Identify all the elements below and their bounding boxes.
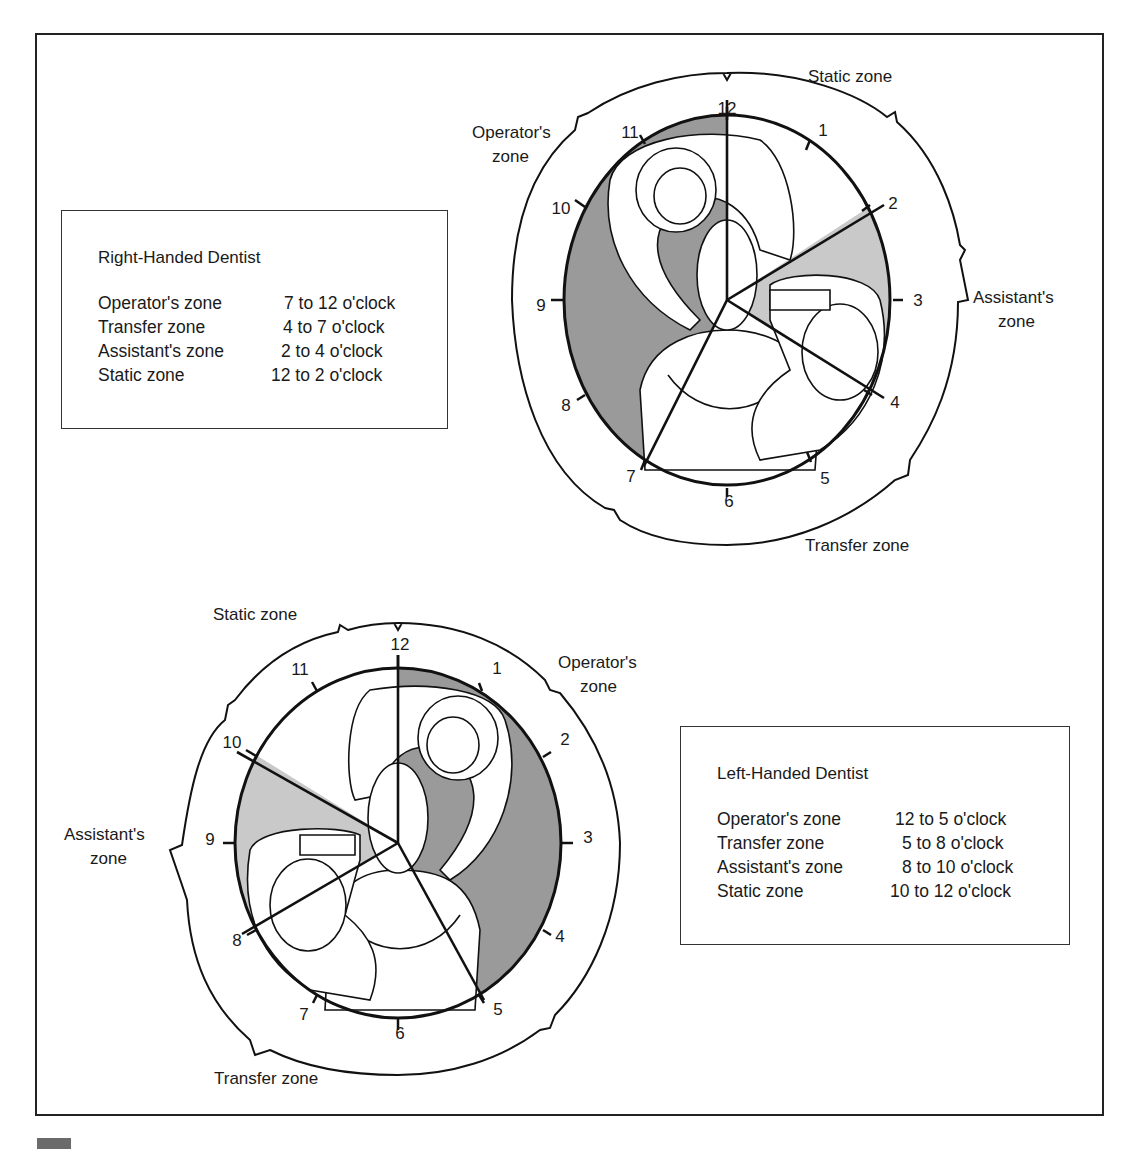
clock-number-1: 1 — [818, 121, 827, 140]
clock-number-3: 3 — [583, 828, 592, 847]
clock-number-5: 5 — [493, 1000, 502, 1019]
label-static-zone: Static zone — [808, 67, 892, 86]
label-operator-zone-line1: Operator's — [472, 123, 551, 142]
clock-number-2: 2 — [888, 194, 897, 213]
clock-number-6: 6 — [724, 492, 733, 511]
label-operator-zone-line2: zone — [492, 147, 529, 166]
label-operator-zone-line1: Operator's — [558, 653, 637, 672]
clock-number-6: 6 — [395, 1024, 404, 1043]
label-assistant-zone-line2: zone — [90, 849, 127, 868]
label-transfer-zone: Transfer zone — [214, 1069, 318, 1088]
diagrams-canvas: 12 1 2 3 4 5 6 7 8 9 10 11 Static zone O… — [0, 0, 1133, 1149]
left-handed-clock-diagram: 12 1 2 3 4 5 6 7 8 9 10 11 Static zone O… — [64, 605, 637, 1088]
clock-number-1: 1 — [492, 659, 501, 678]
label-assistant-zone-line1: Assistant's — [64, 825, 145, 844]
clock-number-4: 4 — [890, 393, 899, 412]
clock-number-8: 8 — [232, 931, 241, 950]
clock-number-5: 5 — [820, 469, 829, 488]
clock-number-12: 12 — [391, 635, 410, 654]
clock-number-4: 4 — [555, 927, 564, 946]
label-assistant-zone-line2: zone — [998, 312, 1035, 331]
label-static-zone: Static zone — [213, 605, 297, 624]
clock-number-9: 9 — [205, 830, 214, 849]
clock-number-10: 10 — [552, 199, 571, 218]
clock-number-11: 11 — [291, 660, 309, 679]
figure-marker — [37, 1138, 71, 1149]
clock-number-12: 12 — [718, 99, 737, 118]
clock-number-9: 9 — [536, 296, 545, 315]
right-handed-clock-diagram: 12 1 2 3 4 5 6 7 8 9 10 11 Static zone O… — [472, 67, 1054, 555]
label-transfer-zone: Transfer zone — [805, 536, 909, 555]
clock-number-7: 7 — [299, 1005, 308, 1024]
clock-number-3: 3 — [913, 291, 922, 310]
label-assistant-zone-line1: Assistant's — [973, 288, 1054, 307]
clock-number-7: 7 — [626, 467, 635, 486]
clock-number-2: 2 — [560, 730, 569, 749]
clock-number-11: 11 — [621, 123, 639, 142]
clock-number-8: 8 — [561, 396, 570, 415]
clock-number-10: 10 — [223, 733, 242, 752]
label-operator-zone-line2: zone — [580, 677, 617, 696]
